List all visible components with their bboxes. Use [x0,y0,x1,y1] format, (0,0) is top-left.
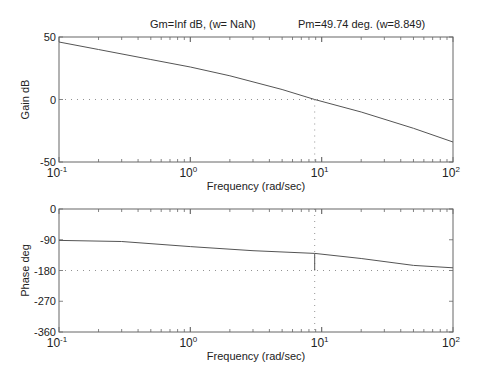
gain-plot [59,37,453,162]
y-tick-label: 0 [50,94,56,106]
gain-curve [59,42,453,142]
x-tick-label: 102 [442,335,460,350]
axes-box [59,209,453,332]
axes-box [59,37,453,162]
x-axis-label: Frequency (rad/sec) [207,350,305,362]
x-tick-label: 100 [179,165,197,180]
title-phase-margin: Pm=49.74 deg. (w=8.849) [298,18,425,30]
phase-plot [59,209,453,332]
x-tick-label: 10-1 [47,335,68,350]
x-tick-label: 100 [179,335,197,350]
phase-curve [59,240,453,267]
y-tick-label: 50 [44,31,56,43]
y-axis-label: Phase deg [19,244,31,297]
x-tick-label: 101 [311,165,329,180]
y-axis-label: Gain dB [19,80,31,120]
x-tick-label: 102 [442,165,460,180]
y-tick-label: -270 [34,295,56,307]
y-tick-label: -180 [34,265,56,277]
x-axis-label: Frequency (rad/sec) [207,180,305,192]
title-gain-margin: Gm=Inf dB, (w= NaN) [150,18,256,30]
x-tick-label: 10-1 [47,165,68,180]
y-tick-label: -90 [40,234,56,246]
y-tick-label: 0 [50,203,56,215]
bode-figure: Gm=Inf dB, (w= NaN)Pm=49.74 deg. (w=8.84… [0,0,487,381]
x-tick-label: 101 [311,335,329,350]
